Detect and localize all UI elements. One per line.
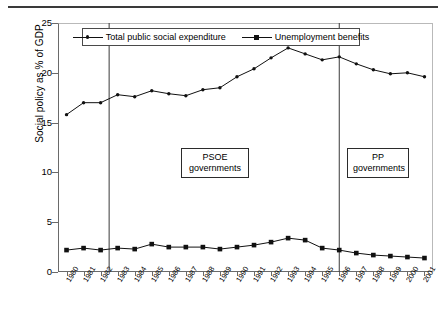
data-point-0-1981 bbox=[82, 101, 85, 104]
annotation-psoe-line2: governments bbox=[187, 163, 243, 174]
data-point-1-1987 bbox=[184, 245, 189, 250]
data-point-1-1992 bbox=[269, 240, 274, 245]
series-line-1 bbox=[67, 238, 425, 258]
data-point-0-2001 bbox=[423, 75, 426, 78]
data-point-0-1987 bbox=[184, 94, 187, 97]
data-point-1-2000 bbox=[405, 255, 410, 260]
annotation-psoe-line1: PSOE bbox=[187, 152, 243, 163]
chart-figure: Social policy as % of GDP 0510152025 198… bbox=[0, 0, 446, 323]
legend-item-unemployment-benefits: Unemployment benefits bbox=[242, 32, 370, 42]
data-point-1-1988 bbox=[201, 245, 206, 250]
data-point-1-1984 bbox=[132, 247, 137, 252]
data-point-1-1999 bbox=[388, 254, 393, 259]
data-point-1-1994 bbox=[303, 238, 308, 243]
data-point-0-1980 bbox=[65, 113, 68, 116]
data-point-1-1986 bbox=[166, 245, 171, 250]
data-point-1-1991 bbox=[252, 243, 257, 248]
data-point-1-1996 bbox=[337, 248, 342, 253]
data-point-0-1992 bbox=[269, 56, 272, 59]
data-point-0-1982 bbox=[99, 101, 102, 104]
legend-label-0: Total public social expenditure bbox=[106, 32, 226, 42]
data-point-0-1985 bbox=[150, 89, 153, 92]
legend-item-total-public-social-expenditure: Total public social expenditure bbox=[73, 32, 226, 42]
data-point-1-1990 bbox=[235, 245, 240, 250]
data-point-1-1989 bbox=[218, 247, 223, 252]
data-point-0-1998 bbox=[372, 68, 375, 71]
annotation-pp-line1: PP bbox=[353, 152, 403, 163]
data-point-0-1983 bbox=[116, 93, 119, 96]
data-point-1-1982 bbox=[98, 248, 103, 253]
data-point-1-1995 bbox=[320, 246, 325, 251]
data-point-0-1999 bbox=[389, 72, 392, 75]
data-point-0-1990 bbox=[235, 75, 238, 78]
data-point-1-1981 bbox=[81, 246, 86, 251]
data-point-0-1994 bbox=[303, 52, 306, 55]
data-point-1-1997 bbox=[354, 251, 359, 256]
data-point-0-1991 bbox=[252, 67, 255, 70]
data-point-1-1980 bbox=[64, 248, 69, 253]
data-point-0-1997 bbox=[355, 62, 358, 65]
data-point-0-2000 bbox=[406, 71, 409, 74]
data-point-1-1998 bbox=[371, 253, 376, 258]
data-point-1-1985 bbox=[149, 242, 154, 247]
data-point-1-1993 bbox=[286, 236, 291, 241]
data-point-0-1986 bbox=[167, 92, 170, 95]
series-line-0 bbox=[67, 48, 425, 115]
data-point-0-1996 bbox=[338, 55, 341, 58]
data-point-1-2001 bbox=[422, 256, 427, 261]
annotation-pp-line2: governments bbox=[353, 163, 403, 174]
data-point-0-1988 bbox=[201, 88, 204, 91]
annotation-pp-governments: PP governments bbox=[347, 148, 409, 178]
annotation-psoe-governments: PSOE governments bbox=[181, 148, 249, 178]
data-point-0-1995 bbox=[321, 58, 324, 61]
data-point-1-1983 bbox=[115, 246, 120, 251]
data-point-0-1989 bbox=[218, 86, 221, 89]
data-point-0-1984 bbox=[133, 95, 136, 98]
legend-marker-dot-icon bbox=[73, 37, 103, 38]
data-point-0-1993 bbox=[286, 46, 289, 49]
legend-label-1: Unemployment benefits bbox=[275, 32, 370, 42]
chart-legend: Total public social expenditure Unemploy… bbox=[82, 28, 360, 46]
legend-marker-square-icon bbox=[242, 37, 272, 38]
